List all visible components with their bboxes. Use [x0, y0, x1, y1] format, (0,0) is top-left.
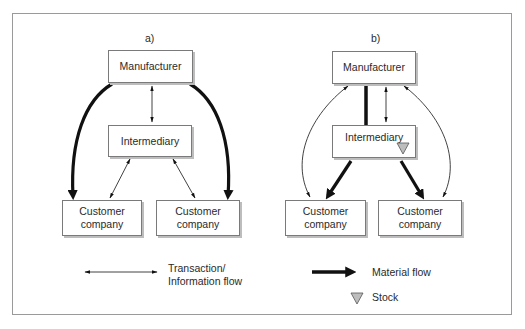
panel-b-customer-right-box: Customer company [378, 200, 462, 236]
panel-b-customer-left-box: Customer company [285, 200, 366, 236]
stock-icon [396, 141, 412, 157]
panel-a-intermediary-box: Intermediary [108, 125, 192, 157]
panel-a-label: a) [145, 32, 154, 44]
legend-transaction-line2: Information flow [168, 275, 242, 288]
flow-arrows [0, 0, 525, 329]
panel-a-customer-left-box: Customer company [62, 200, 142, 236]
legend-stock-label: Stock [372, 291, 398, 304]
legend-material-label: Material flow [372, 266, 431, 279]
panel-b-label: b) [371, 32, 380, 44]
panel-a-manufacturer-box: Manufacturer [108, 50, 193, 83]
panel-a-customer-right-box: Customer company [156, 200, 240, 236]
legend-transaction-label: Transaction/ Information flow [168, 262, 242, 288]
panel-b-manufacturer-box: Manufacturer [332, 51, 416, 84]
legend-transaction-line1: Transaction/ [168, 262, 242, 275]
panel-b-intermediary-label: Intermediary [345, 131, 403, 144]
